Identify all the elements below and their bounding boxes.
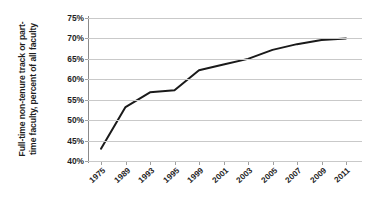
gridline	[88, 59, 362, 60]
x-axis-tick-label: 2003	[235, 166, 255, 185]
x-axis-tick-mark	[273, 162, 274, 165]
gridline	[88, 100, 362, 101]
y-axis-tick-labels: 75%70%65%60%55%50%45%40%	[54, 0, 84, 208]
x-axis-tick-mark	[322, 162, 323, 165]
x-axis-tick-mark	[224, 162, 225, 165]
x-axis-tick-label: 1989	[112, 166, 132, 185]
chart-figure: Full-time non-tenure track or part- time…	[0, 0, 377, 208]
series-line-full-time-non-tenure-track	[88, 18, 362, 161]
x-axis-tick-mark	[101, 162, 102, 165]
x-axis-tick-label: 1975	[88, 166, 108, 185]
x-axis-tick-label: 2009	[308, 166, 328, 185]
gridline	[88, 79, 362, 80]
y-axis-tick-mark	[85, 120, 88, 121]
x-axis-tick-label: 2005	[259, 166, 279, 185]
gridline	[88, 120, 362, 121]
x-axis-tick-mark	[175, 162, 176, 165]
y-axis-tick-label: 75%	[54, 13, 84, 23]
x-axis-tick-mark	[199, 162, 200, 165]
y-axis-tick-label: 70%	[54, 33, 84, 43]
x-axis-tick-mark	[297, 162, 298, 165]
gridline	[88, 141, 362, 142]
y-axis-tick-mark	[85, 38, 88, 39]
y-axis-tick-label: 45%	[54, 136, 84, 146]
plot-area	[88, 18, 362, 161]
y-axis-title-rotated: Full-time non-tenure track or part- time…	[6, 14, 50, 164]
y-axis-tick-mark	[85, 161, 88, 162]
x-axis-tick-label: 2007	[284, 166, 304, 185]
x-axis-tick-mark	[248, 162, 249, 165]
x-axis-tick-mark	[346, 162, 347, 165]
x-axis-tick-mark	[126, 162, 127, 165]
x-axis-tick-label: 2011	[333, 166, 352, 185]
y-axis-tick-mark	[85, 100, 88, 101]
x-axis-tick-label: 1995	[161, 166, 181, 185]
y-axis-tick-mark	[85, 18, 88, 19]
y-axis-title-line-1: Full-time non-tenure track or part-	[17, 22, 29, 157]
x-axis-tick-label: 2001	[210, 166, 230, 185]
y-axis-tick-mark	[85, 79, 88, 80]
x-axis-tick-label: 1993	[137, 166, 157, 185]
x-axis-tick-label: 1999	[186, 166, 206, 185]
gridline	[88, 38, 362, 39]
y-axis-tick-label: 55%	[54, 95, 84, 105]
y-axis-tick-mark	[85, 141, 88, 142]
y-axis-title: Full-time non-tenure track or part- time…	[0, 0, 56, 180]
y-axis-tick-label: 65%	[54, 54, 84, 64]
y-axis-tick-label: 40%	[54, 156, 84, 166]
x-axis-tick-mark	[150, 162, 151, 165]
y-axis-tick-label: 60%	[54, 74, 84, 84]
y-axis-tick-label: 50%	[54, 115, 84, 125]
y-axis-tick-mark	[85, 59, 88, 60]
y-axis-title-line-2: time faculty, percent of all faculty	[28, 23, 40, 155]
gridline	[88, 18, 362, 19]
